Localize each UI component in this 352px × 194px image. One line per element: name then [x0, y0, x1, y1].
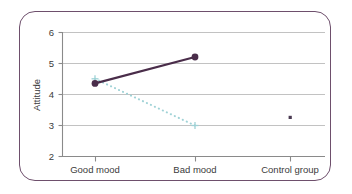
y-tick-label-6: 6	[49, 27, 54, 38]
x-category-label-control-group: Control group	[261, 164, 319, 175]
marker-dot-good-mood	[92, 80, 99, 87]
marker-point-control-group	[289, 116, 292, 119]
y-tick-label-3: 3	[49, 120, 54, 131]
marker-cross-bad-mood	[192, 122, 199, 129]
marker-dot-bad-mood	[192, 54, 199, 61]
chart-plot-area: 6 5 4 3 2 Attitude Good mood Bad mood Co…	[0, 0, 352, 194]
figure-container: 6 5 4 3 2 Attitude Good mood Bad mood Co…	[0, 0, 352, 194]
y-tick-label-5: 5	[49, 58, 54, 69]
x-category-label-good-mood: Good mood	[70, 164, 120, 175]
y-tick-label-2: 2	[49, 151, 54, 162]
y-tick-label-4: 4	[49, 89, 54, 100]
series-solid-line	[95, 57, 195, 83]
x-category-label-bad-mood: Bad mood	[173, 164, 216, 175]
y-axis-title: Attitude	[31, 79, 42, 111]
series-dotted-line	[95, 79, 195, 126]
